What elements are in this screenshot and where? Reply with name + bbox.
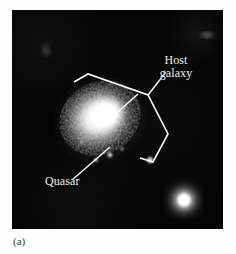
quasar-label: Quasar bbox=[45, 175, 80, 188]
host-galaxy-label-line2: galaxy bbox=[160, 66, 193, 80]
annotation-overlay bbox=[12, 10, 223, 229]
quasar-core-arrow bbox=[111, 94, 138, 122]
figure-root: Hostgalaxy Quasar (a) bbox=[0, 0, 236, 254]
host-galaxy-label: Hostgalaxy bbox=[148, 54, 204, 79]
figure-caption: (a) bbox=[13, 235, 25, 248]
astronomical-image-plate: Hostgalaxy Quasar bbox=[12, 10, 223, 229]
